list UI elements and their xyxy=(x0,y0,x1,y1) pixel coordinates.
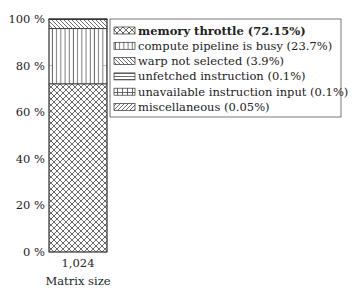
stacked-bar-chart: 0 %20 %40 %60 %80 %100 % 1,024 Matrix si… xyxy=(0,0,354,302)
legend-swatch-3 xyxy=(114,73,135,80)
legend-swatch-5 xyxy=(114,104,135,111)
bar-segment-2 xyxy=(49,20,107,29)
bar-segment-0 xyxy=(49,84,107,252)
x-tick-label: 1,024 xyxy=(62,256,95,270)
legend-entry-5: miscellaneous (0.05%) xyxy=(138,100,270,114)
y-tick-label: 100 % xyxy=(8,12,45,26)
y-tick-label: 60 % xyxy=(16,105,45,119)
x-axis-label: Matrix size xyxy=(45,274,110,288)
y-tick-label: 80 % xyxy=(16,59,45,73)
y-tick-label: 0 % xyxy=(23,245,45,259)
x-axis: 1,024 xyxy=(62,256,95,270)
legend-entry-3: unfetched instruction (0.1%) xyxy=(138,69,306,83)
bars xyxy=(49,19,107,252)
legend-entry-0: memory throttle (72.15%) xyxy=(138,24,306,38)
bar-segment-1 xyxy=(49,29,107,84)
legend-swatch-0 xyxy=(114,27,135,34)
legend-swatch-1 xyxy=(114,42,135,49)
legend-entry-1: compute pipeline is busy (23.7%) xyxy=(138,39,332,53)
legend-entry-2: warp not selected (3.9%) xyxy=(138,54,284,68)
y-tick-label: 20 % xyxy=(16,198,45,212)
legend-swatch-4 xyxy=(114,88,135,95)
legend-entry-4: unavailable instruction input (0.1%) xyxy=(138,85,348,99)
y-tick-label: 40 % xyxy=(16,152,45,166)
legend-swatch-2 xyxy=(114,58,135,65)
legend: memory throttle (72.15%)compute pipeline… xyxy=(110,19,348,117)
